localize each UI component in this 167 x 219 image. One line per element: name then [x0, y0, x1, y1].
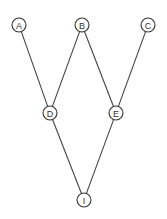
- edge-B-E: [85, 32, 114, 107]
- node-label: C: [145, 21, 152, 31]
- node-label: A: [16, 21, 22, 31]
- node-I: I: [77, 193, 91, 207]
- edge-E-I: [86, 120, 113, 194]
- node-label: B: [79, 21, 85, 31]
- edge-A-D: [21, 32, 47, 107]
- edge-B-D: [52, 32, 79, 107]
- node-E: E: [109, 106, 123, 120]
- node-C: C: [141, 18, 155, 32]
- edges: [21, 32, 145, 194]
- node-B: B: [75, 18, 89, 32]
- node-label: D: [47, 109, 54, 119]
- node-A: A: [12, 18, 26, 32]
- graph-diagram: ABCDEI: [0, 0, 167, 219]
- node-D: D: [43, 106, 57, 120]
- node-label: I: [83, 196, 86, 206]
- node-label: E: [113, 109, 119, 119]
- edge-D-I: [53, 120, 82, 194]
- nodes: ABCDEI: [12, 18, 155, 207]
- edge-C-E: [118, 32, 145, 107]
